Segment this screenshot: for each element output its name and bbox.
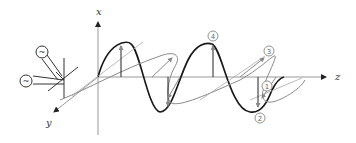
antenna-source: ~ ~ bbox=[20, 46, 78, 98]
ac-source-upper-icon: ~ bbox=[36, 46, 48, 58]
svg-text:2: 2 bbox=[258, 115, 262, 123]
marker-1: 1 bbox=[262, 81, 272, 91]
em-wave-diagram: x z y 4 3 1 bbox=[0, 0, 356, 143]
svg-text:4: 4 bbox=[211, 33, 216, 41]
svg-text:3: 3 bbox=[267, 48, 271, 56]
svg-text:1: 1 bbox=[265, 83, 269, 91]
marker-4: 4 bbox=[208, 31, 218, 41]
y-axis-label: y bbox=[45, 117, 52, 128]
svg-text:~: ~ bbox=[23, 77, 30, 86]
marker-2: 2 bbox=[255, 113, 265, 123]
svg-text:~: ~ bbox=[39, 48, 46, 57]
ac-source-lower-icon: ~ bbox=[20, 75, 32, 87]
z-axis-label: z bbox=[334, 71, 341, 82]
secondary-wave bbox=[60, 54, 305, 104]
x-axis-label: x bbox=[96, 6, 102, 17]
axes: x z y bbox=[45, 6, 341, 135]
marker-3: 3 bbox=[264, 46, 274, 56]
y-axis bbox=[54, 77, 98, 112]
